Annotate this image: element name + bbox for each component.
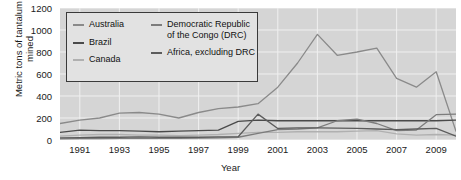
legend-item[interactable]: Africa, excluding DRC xyxy=(151,47,257,58)
legend-swatch-icon xyxy=(151,52,162,54)
legend-box: AustraliaBrazilCanada Democratic Republi… xyxy=(66,12,258,82)
legend-column-left: AustraliaBrazilCanada xyxy=(73,19,124,72)
y-tick-label: 800 xyxy=(8,47,52,58)
x-tick-label: 1991 xyxy=(69,144,90,155)
legend-label: Africa, excluding DRC xyxy=(167,47,255,58)
legend-swatch-icon xyxy=(151,24,162,26)
x-tick-label: 2003 xyxy=(307,144,328,155)
x-tick-label: 2007 xyxy=(386,144,407,155)
legend-label: Democratic Republic of the Congo (DRC) xyxy=(167,19,257,40)
x-tick-label: 2005 xyxy=(346,144,367,155)
x-tick-label: 1999 xyxy=(228,144,249,155)
legend-swatch-icon xyxy=(73,42,84,44)
y-tick-label: 1200 xyxy=(8,3,52,14)
legend-label: Australia xyxy=(89,19,124,30)
x-axis-title: Year xyxy=(0,162,461,173)
legend-item[interactable]: Canada xyxy=(73,54,124,65)
y-tick-label: 0 xyxy=(8,135,52,146)
y-tick-label: 200 xyxy=(8,113,52,124)
chart-container: Metric tons of tantalum mined Year 02004… xyxy=(0,0,461,180)
legend-swatch-icon xyxy=(73,59,84,61)
y-tick-label: 1000 xyxy=(8,25,52,36)
legend-swatch-icon xyxy=(73,24,84,26)
legend-label: Brazil xyxy=(89,37,112,48)
y-tick-label: 400 xyxy=(8,91,52,102)
y-tick-label: 600 xyxy=(8,69,52,80)
x-tick-label: 1993 xyxy=(109,144,130,155)
legend-item[interactable]: Australia xyxy=(73,19,124,30)
x-tick-label: 2009 xyxy=(426,144,447,155)
x-tick-label: 1997 xyxy=(188,144,209,155)
legend-label: Canada xyxy=(89,54,121,65)
x-tick-label: 1995 xyxy=(148,144,169,155)
legend-column-right: Democratic Republic of the Congo (DRC)Af… xyxy=(151,19,257,65)
legend-item[interactable]: Democratic Republic of the Congo (DRC) xyxy=(151,19,257,40)
x-tick-label: 2001 xyxy=(267,144,288,155)
legend-item[interactable]: Brazil xyxy=(73,37,124,48)
